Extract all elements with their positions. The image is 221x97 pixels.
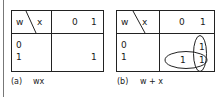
group-row-ellipse — [165, 52, 207, 69]
corner-diagonal-a — [26, 11, 36, 33]
corner-diagonal-b — [133, 11, 145, 33]
diagram-overlay — [0, 0, 221, 97]
